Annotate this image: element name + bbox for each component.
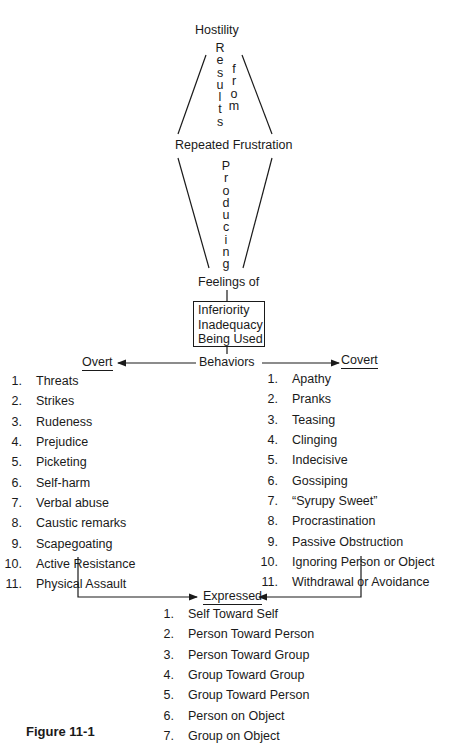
list-item: 5.Picketing <box>0 452 135 472</box>
list-item: 8.Caustic remarks <box>0 513 135 533</box>
item-label: Group on Object <box>188 729 280 743</box>
list-item: 11.Withdrawal or Avoidance <box>256 572 434 592</box>
list-item: 4.Group Toward Group <box>152 665 314 685</box>
item-number: 5. <box>152 688 174 702</box>
feelings-of-label: Feelings of <box>198 275 259 290</box>
list-item: 1.Threats <box>0 371 135 391</box>
list-item: 10.Active Resistance <box>0 554 135 574</box>
list-item: 6.Gossiping <box>256 470 434 490</box>
upper-right-line <box>242 55 272 134</box>
hostility-label: Hostility <box>195 23 239 38</box>
list-item: 5.Group Toward Person <box>152 685 314 705</box>
item-number: 4. <box>256 433 278 447</box>
list-item: 4.Clinging <box>256 430 434 450</box>
item-number: 3. <box>256 413 278 427</box>
expressed-list: 1.Self Toward Self2.Person Toward Person… <box>152 604 314 746</box>
item-number: 4. <box>152 668 174 682</box>
item-number: 5. <box>256 453 278 467</box>
item-label: Prejudice <box>36 435 88 449</box>
item-number: 3. <box>152 648 174 662</box>
item-number: 1. <box>152 607 174 621</box>
item-label: Verbal abuse <box>36 496 109 510</box>
results-vertical-text: Results <box>214 42 226 128</box>
item-label: Teasing <box>292 413 335 427</box>
vertical-letter: r <box>232 75 236 87</box>
item-number: 6. <box>152 709 174 723</box>
item-label: Apathy <box>292 372 331 386</box>
vertical-letter: t <box>218 103 221 115</box>
overt-list: 1.Threats2.Strikes3.Rudeness4.Prejudice5… <box>0 371 135 594</box>
item-label: Self-harm <box>36 476 90 490</box>
item-label: Person Toward Person <box>188 627 314 641</box>
item-label: Scapegoating <box>36 537 112 551</box>
item-number: 2. <box>256 392 278 406</box>
item-number: 9. <box>0 537 22 551</box>
item-label: Indecisive <box>292 453 348 467</box>
list-item: 7.Verbal abuse <box>0 493 135 513</box>
item-label: Ignoring Person or Object <box>292 555 434 569</box>
item-label: Rudeness <box>36 415 92 429</box>
list-item: 3.Rudeness <box>0 412 135 432</box>
item-number: 4. <box>0 435 22 449</box>
repeated-frustration-label: Repeated Frustration <box>175 138 292 153</box>
vertical-letter: r <box>224 172 228 184</box>
producing-vertical-text: Producing <box>220 160 232 271</box>
list-item: 1.Self Toward Self <box>152 604 314 624</box>
item-label: Strikes <box>36 394 74 408</box>
item-label: Passive Obstruction <box>292 535 403 549</box>
figure-caption: Figure 11-1 <box>26 724 95 739</box>
list-item: 3.Person Toward Group <box>152 645 314 665</box>
list-item: 7.Group on Object <box>152 726 314 746</box>
list-item: 1.Apathy <box>256 369 434 389</box>
list-item: 8.Procrastination <box>256 511 434 531</box>
item-number: 1. <box>256 372 278 386</box>
item-number: 1. <box>0 374 22 388</box>
list-item: 9.Passive Obstruction <box>256 531 434 551</box>
item-number: 7. <box>152 729 174 743</box>
item-number: 7. <box>0 496 22 510</box>
lower-right-line <box>243 158 272 268</box>
item-label: Person on Object <box>188 709 285 723</box>
item-number: 11. <box>0 577 22 591</box>
expressed-heading: Expressed <box>203 589 262 605</box>
overt-heading: Overt <box>82 355 113 371</box>
list-item: 9.Scapegoating <box>0 533 135 553</box>
vertical-letter: m <box>229 100 239 112</box>
vertical-letter: s <box>217 116 223 128</box>
feeling-inferiority: Inferiority <box>198 303 264 318</box>
item-number: 10. <box>0 557 22 571</box>
item-number: 7. <box>256 494 278 508</box>
list-item: 4.Prejudice <box>0 432 135 452</box>
from-vertical-text: from <box>228 63 240 112</box>
item-label: Pranks <box>292 392 331 406</box>
upper-left-line <box>178 55 206 134</box>
item-label: Picketing <box>36 455 87 469</box>
covert-list: 1.Apathy2.Pranks3.Teasing4.Clinging5.Ind… <box>256 369 434 592</box>
item-number: 8. <box>256 514 278 528</box>
item-label: Gossiping <box>292 474 348 488</box>
list-item: 2.Strikes <box>0 391 135 411</box>
list-item: 5.Indecisive <box>256 450 434 470</box>
item-number: 2. <box>0 394 22 408</box>
vertical-letter: g <box>223 258 230 270</box>
feeling-inadequacy: Inadequacy <box>198 318 264 333</box>
list-item: 7.“Syrupy Sweet” <box>256 491 434 511</box>
list-item: 10.Ignoring Person or Object <box>256 552 434 572</box>
item-number: 5. <box>0 455 22 469</box>
list-item: 6.Person on Object <box>152 705 314 725</box>
item-number: 8. <box>0 516 22 530</box>
item-number: 3. <box>0 415 22 429</box>
feelings-box: Inferiority Inadequacy Being Used <box>193 301 265 347</box>
item-label: Physical Assault <box>36 577 126 591</box>
list-item: 6.Self-harm <box>0 472 135 492</box>
item-number: 6. <box>256 474 278 488</box>
item-label: Person Toward Group <box>188 648 309 662</box>
list-item: 11.Physical Assault <box>0 574 135 594</box>
item-label: Caustic remarks <box>36 516 126 530</box>
item-label: Procrastination <box>292 514 375 528</box>
item-label: Group Toward Person <box>188 688 309 702</box>
item-label: Clinging <box>292 433 337 447</box>
lower-left-line <box>178 158 209 268</box>
item-label: Group Toward Group <box>188 668 305 682</box>
item-number: 10. <box>256 555 278 569</box>
